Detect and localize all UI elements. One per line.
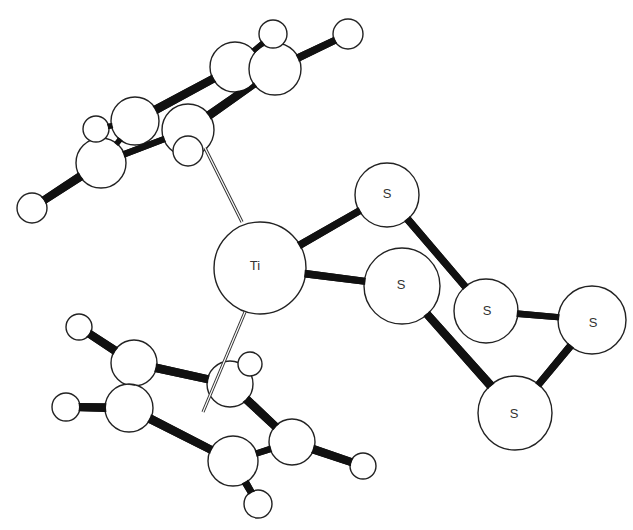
molecule-diagram: Ti S S S S S [0, 0, 633, 530]
atom-c10 [208, 436, 258, 486]
atom-label-s1: S [383, 186, 392, 201]
ti-centroid-link-1 [205, 148, 242, 222]
molecule-canvas: Ti S S S S S [0, 0, 633, 530]
atom-h8 [238, 352, 262, 376]
atom-label-s4: S [589, 315, 598, 330]
atom-h2 [333, 19, 363, 49]
atom-label-ti: Ti [250, 258, 260, 273]
atom-layer [17, 19, 626, 518]
atom-label-s2: S [397, 277, 406, 292]
atom-label-s5: S [510, 406, 519, 421]
atom-h4 [173, 136, 203, 166]
atom-label-s3: S [483, 303, 492, 318]
